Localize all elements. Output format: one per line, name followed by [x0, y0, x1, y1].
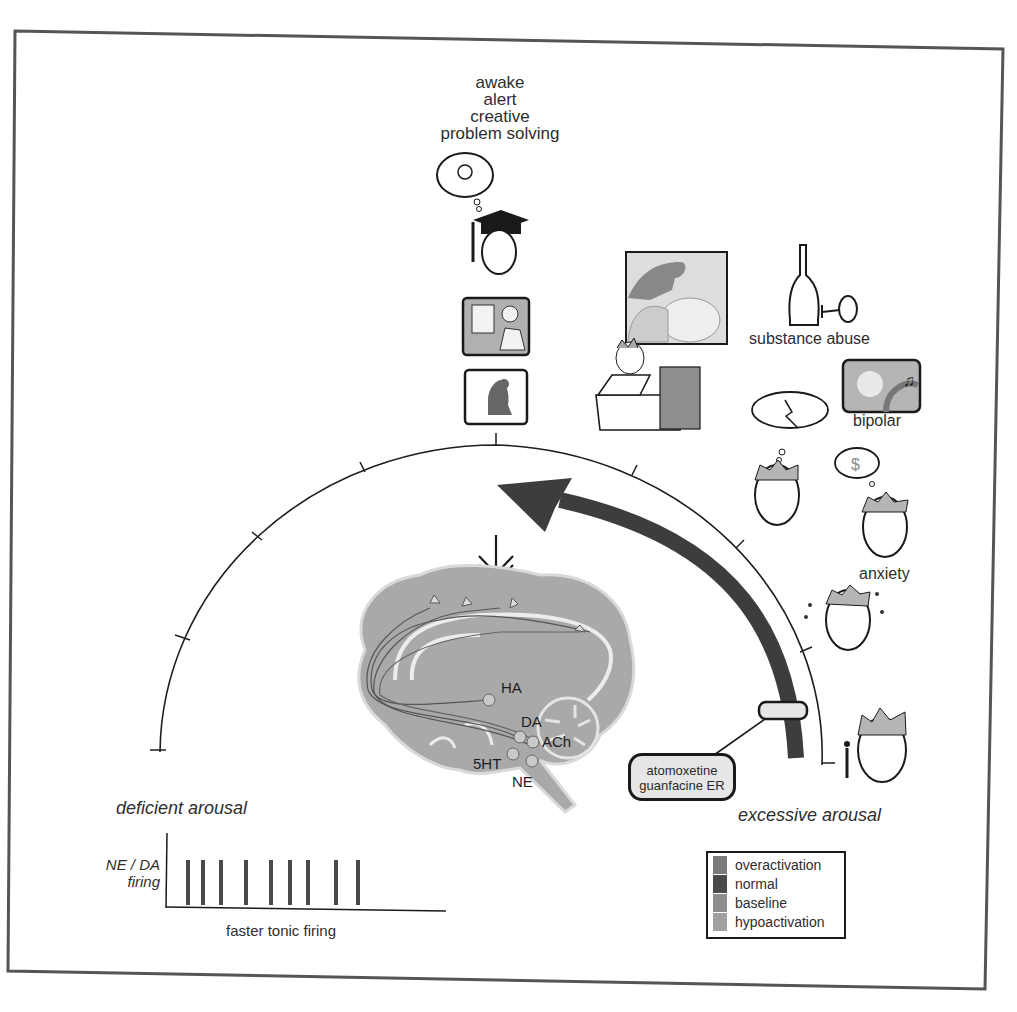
excessive-arousal-label: excessive arousal — [738, 805, 881, 826]
condition-label-anxiety: anxiety — [859, 565, 910, 583]
thinker-panel-icon — [465, 370, 527, 424]
money-worry-head-icon: $ — [835, 448, 908, 557]
wine-bottle-glass-icon — [789, 245, 857, 325]
bipolar-sun-rainbow-panel-icon: ♫ — [843, 360, 920, 412]
drug-name-guanfacine-er: guanfacine ER — [631, 778, 733, 793]
firing-plot-xlabel: faster tonic firing — [226, 922, 336, 939]
legend-swatch — [713, 894, 727, 912]
firing-plot-ylabel-2: firing — [96, 873, 160, 890]
graduate-head-icon — [473, 210, 529, 274]
figure-frame — [8, 31, 1003, 989]
storm-thought-head-icon — [752, 392, 828, 525]
brain-label-5ht: 5HT — [473, 755, 501, 772]
brain-label-ne: NE — [512, 773, 533, 790]
legend-swatch — [713, 856, 727, 874]
figure-canvas: ♫ $ — [0, 0, 1017, 1012]
svg-text:♫: ♫ — [903, 372, 915, 389]
panicked-head-with-tiny-attacker-icon — [844, 708, 906, 782]
condition-label-substance-abuse: substance abuse — [749, 330, 870, 348]
drug-callout-box: atomoxetine guanfacine ER — [628, 753, 736, 801]
legend: overactivation normal baseline hypoactiv… — [706, 851, 846, 939]
drug-target-marker — [759, 702, 807, 719]
brain-label-ach: ACh — [542, 733, 571, 750]
scared-sweating-head-icon — [804, 585, 884, 650]
legend-item-hypoactivation: hypoactivation — [713, 913, 825, 931]
legend-item-baseline: baseline — [713, 894, 787, 912]
state-label-alert: alert — [400, 91, 600, 108]
student-reading-panel-icon — [463, 298, 529, 355]
deficient-arousal-label: deficient arousal — [116, 798, 247, 819]
state-label-creative: creative — [400, 108, 600, 125]
firing-plot-ylabel-1: NE / DA — [96, 856, 160, 873]
svg-text:$: $ — [851, 456, 860, 473]
brain-illustration — [359, 566, 634, 812]
legend-swatch — [713, 913, 727, 931]
legend-swatch — [713, 875, 727, 893]
brain-label-da: DA — [521, 713, 542, 730]
lightbulb-thought-icon — [437, 153, 493, 212]
state-label-awake: awake — [400, 74, 600, 91]
state-label-problem-solving: problem solving — [400, 125, 600, 142]
condition-label-bipolar: bipolar — [853, 412, 901, 430]
drug-name-atomoxetine: atomoxetine — [631, 763, 733, 778]
firing-spikes — [188, 860, 358, 905]
sleeping-person-in-bed-icon — [596, 338, 700, 430]
legend-item-overactivation: overactivation — [713, 856, 821, 874]
legend-item-normal: normal — [713, 875, 778, 893]
dinosaur-nightmare-panel-icon — [626, 252, 727, 344]
brain-label-ha: HA — [501, 679, 522, 696]
